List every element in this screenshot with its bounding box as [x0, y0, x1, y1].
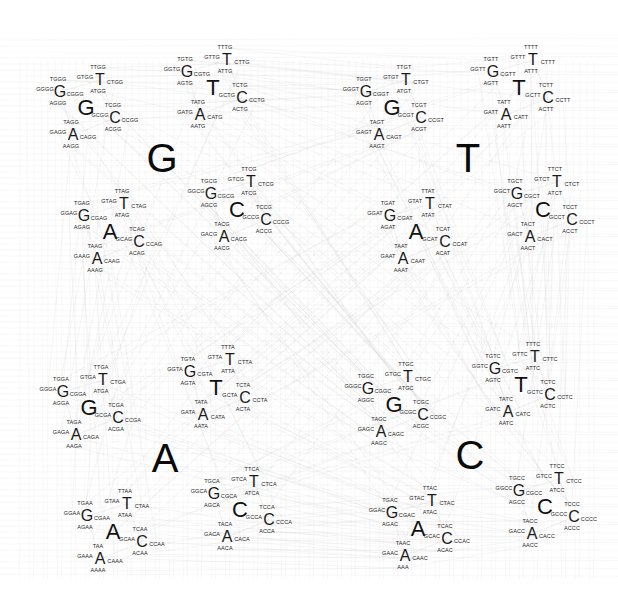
kmer-label: CTTT — [541, 60, 555, 66]
kmer-label: TATC — [499, 397, 513, 403]
kmer-label: TGCA — [204, 479, 220, 485]
kmer-label: TAA — [93, 544, 104, 550]
sub-letter-tat: T — [425, 196, 435, 212]
kmer-label: AACT — [520, 246, 535, 252]
kmer-label: CTGA — [110, 380, 126, 386]
kmer-label: GTCG — [228, 177, 244, 183]
kmer-label: GGAA — [64, 511, 80, 517]
kmer-label: AGCC — [509, 500, 525, 506]
kmer-label: CGCA — [221, 494, 237, 500]
sub-letter-ccg: C — [260, 212, 272, 228]
sub-letter-gct: G — [511, 186, 523, 202]
kmer-label: AAGG — [63, 144, 79, 150]
kmer-label: CGTC — [502, 369, 518, 375]
kmer-label: CTAG — [131, 204, 146, 210]
kmer-label: TGGA — [53, 377, 69, 383]
kmer-label: AGTA — [181, 381, 196, 387]
kmer-label: TCGT — [411, 103, 426, 109]
kmer-label: TTAC — [423, 486, 437, 492]
kmer-label: GGGC — [344, 384, 361, 390]
kmer-label: ACTA — [236, 407, 251, 413]
kmer-label: TTTT — [524, 45, 538, 51]
kmer-label: AGCA — [204, 503, 220, 509]
kmer-label: TAGA — [67, 420, 82, 426]
kmer-label: GTTG — [204, 55, 220, 61]
kmer-label: GAAC — [382, 551, 398, 557]
kmer-label: TTTC — [526, 342, 540, 348]
kmer-label: AACA — [217, 546, 232, 552]
kmer-label: AAAA — [90, 568, 105, 574]
kmer-label: CGGC — [375, 389, 392, 395]
kmer-label: GCCA — [246, 515, 262, 521]
kmer-label: CTTC — [542, 357, 557, 363]
kmer-label: AGAT — [381, 225, 396, 231]
kmer-label: AAAT — [394, 268, 408, 274]
kmer-label: TTAA — [118, 489, 132, 495]
kmer-label: ATAC — [423, 510, 437, 516]
kmer-label: CTCA — [261, 482, 276, 488]
sub-letter-tct: T — [552, 174, 562, 190]
sub-letter-tga: T — [98, 372, 108, 388]
kmer-label: GACG — [201, 232, 218, 238]
sub-letter-cgc: C — [417, 407, 429, 423]
quadrant-letter-c: C — [456, 435, 485, 475]
kmer-label: CCAC — [454, 539, 470, 545]
sub-letter-gac: G — [386, 505, 398, 521]
kmer-label: CGAA — [94, 516, 110, 522]
kmer-label: ATTG — [218, 69, 233, 75]
block-letter-tc: T — [514, 374, 527, 396]
kmer-label: TGTC — [485, 354, 500, 360]
kmer-label: CTCG — [258, 182, 274, 188]
quadrant-letter-a: A — [152, 438, 179, 478]
kmer-label: ACGG — [105, 127, 122, 133]
kmer-label: CAAA — [107, 559, 122, 565]
kmer-label: GAGA — [53, 430, 69, 436]
kmer-label: GTCA — [231, 477, 247, 483]
kmer-label: TACT — [521, 222, 535, 228]
kmer-label: TGCT — [507, 179, 522, 185]
kmer-label: ACGA — [108, 427, 124, 433]
sub-letter-cta: C — [239, 390, 251, 406]
kmer-label: GTTT — [511, 55, 526, 61]
kmer-label: TATA — [194, 400, 207, 406]
kmer-label: AATC — [499, 421, 514, 427]
kmer-label: CCTG — [249, 98, 265, 104]
sub-letter-tta: T — [225, 352, 235, 368]
kmer-label: TATG — [191, 100, 205, 106]
sub-letter-gcc: G — [513, 483, 525, 499]
sub-letter-cac: C — [441, 531, 453, 547]
kmer-label: GGTC — [472, 364, 488, 370]
sub-letter-ggg: G — [54, 84, 66, 100]
kmer-label: TCTG — [232, 83, 247, 89]
kmer-label: AAA — [397, 565, 408, 571]
kmer-label: AAGT — [369, 144, 384, 150]
kmer-label: CCCA — [276, 520, 292, 526]
sub-letter-tgc: T — [403, 369, 413, 385]
kmer-label: GCAT — [422, 237, 437, 243]
kmer-label: GAAT — [381, 254, 396, 260]
kmer-label: GGCA — [191, 489, 208, 495]
kmer-label: GCCT — [549, 215, 565, 221]
kmer-label: GACT — [507, 232, 523, 238]
kmer-label: CTAT — [438, 204, 452, 210]
kmer-label: ACCG — [256, 229, 272, 235]
sub-letter-aaa: A — [95, 551, 106, 567]
sub-letter-cca: C — [263, 512, 275, 528]
kmer-label: AGTC — [485, 378, 501, 384]
kmer-label: CGCG — [218, 194, 235, 200]
kmer-label: TGAG — [74, 201, 90, 207]
kmer-label: CGTG — [194, 72, 210, 78]
kmer-label: CACG — [231, 237, 247, 243]
kmer-label: CTAA — [135, 504, 150, 510]
kmer-label: TTCC — [549, 464, 564, 470]
sub-letter-acg: A — [219, 229, 230, 245]
kmer-label: GGGG — [36, 87, 54, 93]
block-letter-tg: T — [206, 77, 219, 99]
kmer-label: CCGA — [125, 418, 141, 424]
kmer-label: GTAA — [105, 499, 120, 505]
kmer-label: CTTA — [238, 360, 252, 366]
kmer-label: CTGC — [415, 377, 431, 383]
kmer-label: ACCT — [562, 229, 577, 235]
kmer-label: TCGA — [108, 403, 124, 409]
kmer-label: CATA — [211, 415, 225, 421]
